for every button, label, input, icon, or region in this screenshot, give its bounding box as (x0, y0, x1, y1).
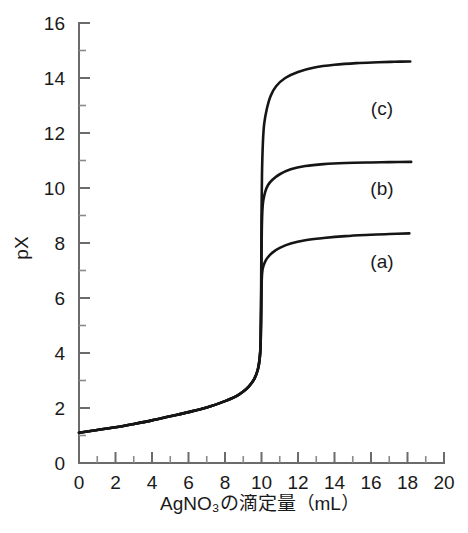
y-tick-label: 4 (54, 343, 65, 364)
x-tick-label: 0 (74, 472, 85, 493)
y-tick-label: 10 (44, 178, 65, 199)
series-label-b: (b) (370, 178, 393, 199)
x-tick-label: 12 (287, 472, 308, 493)
series-label-a: (a) (370, 251, 393, 272)
curve-b (79, 162, 411, 433)
x-axis-title-wrap: AgNO₃の滴定量（mL） (90, 494, 430, 528)
series-labels: (a)(b)(c) (370, 98, 393, 272)
x-axis-title: AgNO₃の滴定量（mL） (90, 494, 430, 515)
x-tick-label: 8 (220, 472, 231, 493)
x-tick-label: 14 (324, 472, 346, 493)
chart-figure: 024681012141602468101214161820 (a)(b)(c)… (0, 0, 468, 533)
x-tick-label: 6 (183, 472, 194, 493)
x-tick-label: 10 (251, 472, 272, 493)
x-tick-label: 20 (433, 472, 454, 493)
y-tick-label: 2 (54, 398, 65, 419)
curve-c (79, 62, 410, 433)
y-axis-title: pX (11, 236, 32, 260)
titration-curve-plot: 024681012141602468101214161820 (a)(b)(c)… (0, 0, 468, 533)
series-label-c: (c) (371, 98, 393, 119)
x-tick-label: 4 (147, 472, 158, 493)
y-tick-label: 0 (54, 453, 65, 474)
data-curves (79, 62, 411, 433)
y-tick-label: 6 (54, 288, 65, 309)
curve-a (79, 233, 409, 432)
y-tick-label: 8 (54, 233, 65, 254)
x-tick-label: 2 (110, 472, 121, 493)
y-tick-label: 16 (44, 13, 65, 34)
x-tick-label: 18 (397, 472, 418, 493)
x-tick-label: 16 (360, 472, 381, 493)
y-tick-label: 14 (44, 68, 66, 89)
y-tick-label: 12 (44, 123, 65, 144)
